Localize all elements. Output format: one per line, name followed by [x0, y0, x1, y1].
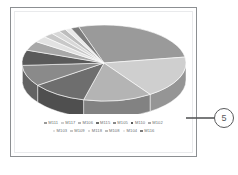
legend-label: M104 [127, 128, 138, 134]
legend-label: M103 [57, 128, 68, 134]
legend-swatch-icon [53, 130, 56, 133]
legend-label: M102 [152, 120, 163, 126]
legend-swatch-icon [140, 130, 143, 133]
pie-chart-svg [17, 16, 192, 114]
legend-swatch-icon [123, 130, 126, 133]
legend-label: M117 [65, 120, 75, 126]
legend-label: M115 [100, 120, 110, 126]
legend-row: M111M117M106M115M105M110M102 [43, 120, 165, 126]
legend-swatch-icon [88, 130, 91, 133]
legend-item-m106: M106 [78, 120, 93, 126]
legend-label: M111 [48, 120, 58, 126]
legend-swatch-icon [44, 122, 47, 125]
legend-swatch-icon [70, 130, 73, 133]
legend-item-m109: M109 [70, 128, 85, 134]
legend-label: M108 [109, 128, 120, 134]
legend-item-m115: M115 [96, 120, 110, 126]
legend-label: M109 [74, 128, 85, 134]
callout-svg: 5 [186, 96, 238, 140]
legend-swatch-icon [105, 130, 108, 133]
legend-item-m105: M105 [113, 120, 128, 126]
legend-label: M105 [117, 120, 128, 126]
legend-item-m104: M104 [123, 128, 138, 134]
chart-legend: M111M117M106M115M105M110M102 M103M109M11… [11, 120, 196, 134]
legend-label: M118 [92, 128, 102, 134]
legend-item-m116: M116 [140, 128, 154, 134]
legend-swatch-icon [78, 122, 81, 125]
legend-item-m118: M118 [88, 128, 102, 134]
legend-swatch-icon [148, 122, 151, 125]
legend-label: M106 [82, 120, 93, 126]
legend-item-m117: M117 [61, 120, 75, 126]
legend-item-m103: M103 [53, 128, 68, 134]
legend-swatch-icon [131, 122, 134, 125]
legend-row: M103M109M118M108M104M116 [51, 128, 156, 134]
pie-chart-plot-area [17, 16, 192, 114]
legend-swatch-icon [96, 122, 99, 125]
legend-swatch-icon [113, 122, 116, 125]
chart-frame: M111M117M106M115M105M110M102 M103M109M11… [10, 7, 197, 157]
legend-item-m110: M110 [131, 120, 145, 126]
legend-label: M116 [144, 128, 154, 134]
legend-label: M110 [135, 120, 145, 126]
callout-marker-5: 5 [186, 96, 238, 140]
pie-top-slices [22, 25, 186, 101]
legend-item-m102: M102 [148, 120, 163, 126]
legend-swatch-icon [61, 122, 64, 125]
legend-item-m108: M108 [105, 128, 120, 134]
callout-number-label: 5 [221, 113, 226, 123]
legend-item-m111: M111 [44, 120, 58, 126]
